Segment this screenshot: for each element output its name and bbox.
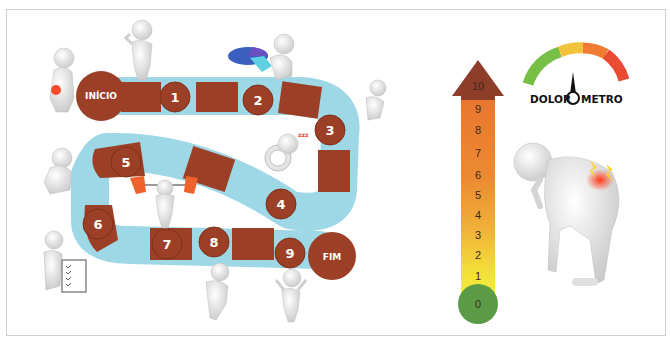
svg-text:5: 5: [121, 155, 130, 170]
figure-sleeping-clock-icon: zzz: [265, 131, 309, 171]
svg-text:8: 8: [475, 124, 481, 136]
figure-pie-chart-icon: [228, 34, 294, 80]
figure-back-pain-icon: [50, 48, 74, 112]
svg-text:4: 4: [276, 197, 285, 212]
svg-text:INÍCIO: INÍCIO: [85, 90, 117, 101]
step-2: 2: [243, 85, 273, 115]
svg-text:2: 2: [253, 93, 262, 108]
step-4: 4: [266, 189, 296, 219]
svg-text:FIM: FIM: [323, 252, 341, 262]
svg-text:zzz: zzz: [298, 131, 309, 138]
svg-text:2: 2: [475, 249, 481, 261]
gauge-title-left: DOLOR: [530, 93, 571, 105]
svg-text:5: 5: [475, 189, 481, 201]
svg-text:6: 6: [475, 169, 481, 181]
step-9: 9: [275, 238, 305, 268]
step-1: 1: [160, 82, 190, 112]
svg-text:3: 3: [475, 229, 481, 241]
svg-text:3: 3: [325, 123, 334, 138]
svg-text:9: 9: [285, 246, 294, 261]
figure-running-icon: [366, 80, 386, 120]
pain-journey-diagram: INÍCIO 1 2 3 4 5 6 7: [0, 0, 670, 341]
gauge-title-right: METRO: [581, 93, 623, 105]
figure-thinking-icon: [126, 20, 152, 80]
step-6: 6: [83, 209, 113, 239]
end-circle: FIM: [308, 232, 356, 280]
pain-scale: 10 9 8 7 6 5 4 3 2 1 0: [452, 60, 504, 324]
svg-text:0: 0: [475, 298, 481, 310]
svg-text:10: 10: [472, 80, 484, 92]
svg-text:9: 9: [475, 103, 481, 115]
svg-text:1: 1: [170, 90, 179, 105]
svg-text:1: 1: [475, 270, 481, 282]
svg-text:6: 6: [93, 217, 102, 232]
figure-dancing-icon: [206, 263, 229, 320]
figure-bent-back-pain-icon: [514, 143, 619, 286]
step-7: 7: [152, 229, 182, 259]
start-circle: INÍCIO: [76, 71, 126, 121]
step-5: 5: [111, 147, 141, 177]
figure-sad-sitting-icon: [44, 148, 72, 194]
dolormetro-gauge: [528, 48, 624, 84]
svg-text:7: 7: [475, 147, 481, 159]
figure-weightlifting-icon: [130, 176, 198, 228]
svg-text:8: 8: [209, 235, 218, 250]
svg-text:7: 7: [162, 237, 171, 252]
svg-text:4: 4: [475, 209, 481, 221]
step-3: 3: [315, 115, 345, 145]
step-8: 8: [199, 227, 229, 257]
figure-jumping-icon: [276, 269, 306, 322]
